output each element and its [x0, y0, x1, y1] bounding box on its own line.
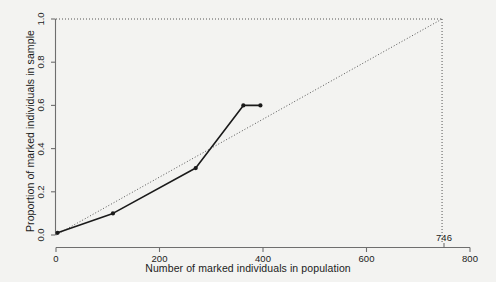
- y-axis-title: Proportion of marked individuals in samp…: [24, 1, 36, 261]
- x-axis-title: Number of marked individuals in populati…: [0, 262, 496, 274]
- y-tick-label-0-2: 0.2: [35, 185, 46, 198]
- scatter-line-chart: [0, 0, 496, 282]
- data-point: [258, 103, 262, 107]
- data-point: [194, 166, 198, 170]
- y-tick-label-0-4: 0.4: [35, 142, 46, 155]
- data-point: [241, 103, 245, 107]
- y-tick-label-0-8: 0.8: [35, 56, 46, 69]
- y-tick-label-0-0: 0.0: [35, 228, 46, 241]
- data-point: [55, 231, 59, 235]
- annotation-label-746: 746: [436, 232, 452, 243]
- chart-background: [0, 0, 496, 282]
- data-point: [111, 211, 115, 215]
- y-tick-label-1-0: 1.0: [35, 12, 46, 25]
- y-tick-label-0-6: 0.6: [35, 99, 46, 112]
